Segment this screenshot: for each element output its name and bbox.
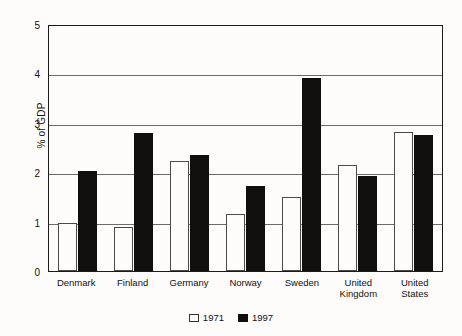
- bar-group: [217, 26, 273, 271]
- y-tick-label-3: 3: [24, 118, 40, 129]
- bar-1971[interactable]: [282, 197, 301, 271]
- bar-1971[interactable]: [58, 223, 77, 271]
- bar-group: [105, 26, 161, 271]
- bar-1997[interactable]: [78, 171, 97, 271]
- x-tick-label: Finland: [104, 275, 160, 317]
- x-axis-tick-labels: DenmarkFinlandGermanyNorwaySwedenUnited …: [48, 275, 443, 317]
- legend-entry[interactable]: 1997: [238, 312, 273, 323]
- y-tick-label-5: 5: [24, 20, 40, 31]
- y-axis-tick-labels: 012345: [16, 25, 48, 272]
- bar-group: [161, 26, 217, 271]
- bar-1997[interactable]: [302, 78, 321, 271]
- legend-entry[interactable]: 1971: [189, 312, 224, 323]
- x-tick-label: Sweden: [274, 275, 330, 317]
- bar-group: [330, 26, 386, 271]
- y-tick-label-2: 2: [24, 168, 40, 179]
- bar-1971[interactable]: [170, 161, 189, 271]
- x-tick-label: United States: [387, 275, 443, 317]
- bars-layer: [49, 26, 442, 271]
- white-square-icon: [189, 314, 199, 322]
- bar-chart-figure: % of GDP 012345 DenmarkFinlandGermanyNor…: [0, 0, 462, 336]
- bar-group: [274, 26, 330, 271]
- chart-legend: 19711997: [0, 312, 462, 323]
- y-tick-label-0: 0: [24, 267, 40, 278]
- bar-1997[interactable]: [246, 186, 265, 271]
- bar-1971[interactable]: [338, 165, 357, 271]
- legend-label: 1971: [203, 312, 224, 323]
- legend-label: 1997: [252, 312, 273, 323]
- y-tick-label-1: 1: [24, 217, 40, 228]
- bar-1997[interactable]: [358, 176, 377, 271]
- x-tick-label: Norway: [217, 275, 273, 317]
- bar-1971[interactable]: [114, 227, 133, 271]
- bar-1971[interactable]: [394, 132, 413, 271]
- bar-group: [49, 26, 105, 271]
- bar-1971[interactable]: [226, 214, 245, 271]
- black-square-icon: [238, 314, 248, 322]
- x-tick-label: Denmark: [48, 275, 104, 317]
- bar-1997[interactable]: [190, 155, 209, 271]
- bar-1997[interactable]: [414, 135, 433, 271]
- x-tick-label: Germany: [161, 275, 217, 317]
- bar-1997[interactable]: [134, 133, 153, 271]
- plot-area: [48, 25, 443, 272]
- x-tick-label: United Kingdom: [330, 275, 386, 317]
- y-tick-label-4: 4: [24, 69, 40, 80]
- bar-group: [386, 26, 442, 271]
